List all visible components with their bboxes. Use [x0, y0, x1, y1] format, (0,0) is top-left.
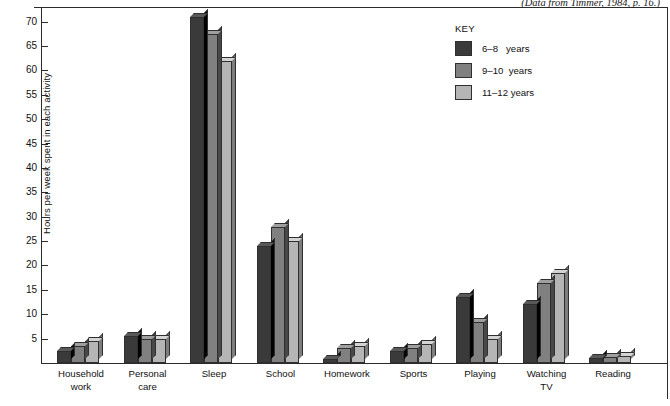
bar-side	[218, 26, 222, 359]
bar-face	[456, 297, 470, 363]
legend-label: 11–12 years	[482, 87, 534, 98]
y-tick-label-25: 25	[11, 236, 37, 246]
y-tick-label-10: 10	[11, 309, 37, 319]
bar-side	[537, 296, 541, 359]
bar-group	[57, 7, 105, 363]
bar	[617, 356, 631, 363]
source-credit: (Data from Timmer, 1984, p. 16.)	[0, 0, 668, 7]
y-tick-label-60: 60	[11, 65, 37, 75]
legend-rows: 6–8 years9–10 years11–12 years	[455, 41, 605, 100]
y-tick-label-55: 55	[11, 90, 37, 100]
y-tick-label-40: 40	[11, 163, 37, 173]
bar-side	[551, 275, 555, 359]
legend-swatch	[455, 63, 472, 78]
legend-swatch	[455, 85, 472, 100]
bar-face	[603, 357, 617, 363]
bar	[124, 336, 138, 363]
legend-label: 9–10 years	[482, 65, 532, 76]
bar-group	[323, 7, 371, 363]
y-tick-50	[41, 119, 48, 120]
y-axis-line	[41, 7, 42, 364]
bar	[523, 304, 537, 363]
y-tick-45	[41, 144, 48, 145]
bar-face	[57, 351, 71, 363]
y-tick-60	[41, 70, 48, 71]
bar-face	[257, 246, 271, 363]
y-tick-5	[41, 339, 48, 340]
bar-face	[124, 336, 138, 363]
bar-face	[190, 17, 204, 363]
bar-side	[299, 233, 303, 359]
legend-item: 6–8 years	[455, 41, 605, 56]
bar-side	[470, 289, 474, 359]
bar-face	[589, 358, 603, 363]
y-tick-label-45: 45	[11, 139, 37, 149]
y-tick-30	[41, 217, 48, 218]
bar	[390, 351, 404, 363]
bar-group	[124, 7, 172, 363]
x-axis-line	[41, 363, 668, 364]
bar-side	[204, 9, 208, 359]
legend-label: 6–8 years	[482, 43, 529, 54]
y-tick-40	[41, 168, 48, 169]
chart-legend: KEY 6–8 years9–10 years11–12 years	[455, 23, 605, 107]
y-tick-25	[41, 241, 48, 242]
y-axis-tick-labels: 510152025303540455055606570	[9, 7, 37, 364]
legend-item: 11–12 years	[455, 85, 605, 100]
y-tick-label-50: 50	[11, 114, 37, 124]
bar-side	[565, 265, 569, 359]
legend-swatch	[455, 41, 472, 56]
legend-title: KEY	[455, 23, 605, 34]
bar	[190, 17, 204, 363]
bar	[589, 358, 603, 363]
bar	[603, 357, 617, 363]
x-label-8: Reading	[571, 368, 655, 381]
x-axis-tick-labels: Household workPersonal careSleepSchoolHo…	[41, 368, 668, 406]
y-tick-70	[41, 22, 48, 23]
bar-side	[232, 53, 236, 359]
bar-face	[323, 359, 337, 363]
y-tick-label-35: 35	[11, 187, 37, 197]
bar	[57, 351, 71, 363]
y-tick-label-70: 70	[11, 17, 37, 27]
y-tick-20	[41, 265, 48, 266]
y-tick-10	[41, 314, 48, 315]
bar	[323, 359, 337, 363]
bar-face	[617, 356, 631, 363]
bar	[257, 246, 271, 363]
y-tick-15	[41, 290, 48, 291]
y-tick-55	[41, 95, 48, 96]
bar-group	[190, 7, 238, 363]
legend-item: 9–10 years	[455, 63, 605, 78]
y-tick-65	[41, 46, 48, 47]
bar-face	[390, 351, 404, 363]
bar-face	[523, 304, 537, 363]
y-tick-label-30: 30	[11, 212, 37, 222]
bar-group	[390, 7, 438, 363]
bar-side	[271, 238, 275, 359]
y-tick-label-20: 20	[11, 260, 37, 270]
y-tick-label-5: 5	[11, 334, 37, 344]
y-tick-label-15: 15	[11, 285, 37, 295]
bar-side	[285, 219, 289, 359]
bar-group	[257, 7, 305, 363]
bar	[456, 297, 470, 363]
y-tick-35	[41, 192, 48, 193]
y-tick-label-65: 65	[11, 41, 37, 51]
